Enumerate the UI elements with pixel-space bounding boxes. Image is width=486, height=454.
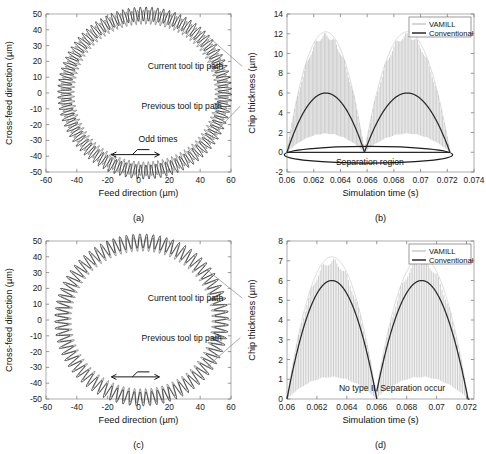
x-tick-label: -20 [102,175,114,185]
y-tick-label: 40 [33,25,43,35]
y-tick-label: 0 [278,147,283,157]
y-tick-label: 50 [33,236,43,246]
y-tick-label: -30 [30,362,42,372]
x-tick-label: 0.07 [412,175,429,185]
plot-frame-a [46,14,231,172]
panel-caption: (b) [375,213,386,223]
x-tick-label: 0.068 [396,402,417,412]
x-tick-label: 0.064 [330,175,351,185]
y-tick-label: -20 [30,120,42,130]
annotation-label: No type II [339,383,376,393]
panel-caption: (c) [133,440,144,450]
y-tick-label: 12 [274,29,284,39]
x-tick-label: 0.074 [464,175,485,185]
y-tick-label: 8 [278,68,283,78]
plot-b: 0.060.0620.0640.0660.0680.070.0720.074-2… [243,0,486,227]
x-tick-label: 0.066 [357,175,378,185]
y-tick-label: -30 [30,135,42,145]
legend-b: VAMILLConventional [409,17,474,38]
y-tick-label: 50 [33,9,43,19]
y-axis-title: Cross-feed direction (µm) [4,41,14,145]
x-axis-title: Feed direction (µm) [99,188,179,198]
y-tick-label: 40 [33,252,43,262]
y-tick-label: 10 [274,49,284,59]
plot-a: -60-40-200204060-50-40-30-20-10010203040… [0,0,243,227]
y-tick-label: -50 [30,167,42,177]
annotations-d: No type IISeparation occur [339,383,445,393]
y-tick-label: 6 [278,276,283,286]
annotation-label: Separation occur [380,383,445,393]
legend-label: VAMILL [429,247,455,256]
panel-caption: (d) [375,440,386,450]
y-tick-label: 0 [37,315,42,325]
legend-label: VAMILL [429,20,455,29]
y-tick-label: 1 [278,374,283,384]
figure-root: -60-40-200204060-50-40-30-20-10010203040… [0,0,486,454]
y-tick-label: 8 [278,236,283,246]
y-tick-label: 6 [278,88,283,98]
x-tick-label: 0.068 [383,175,404,185]
y-tick-label: 14 [274,9,284,19]
x-tick-label: 60 [226,402,236,412]
y-tick-label: 2 [278,355,283,365]
legend-d: VAMILLConventional [409,244,474,265]
plot-c: -60-40-200204060-50-40-30-20-10010203040… [0,227,243,454]
y-tick-label: -2 [276,167,284,177]
annotation-label: Previous tool tip path [142,333,222,343]
plot-d: 0.060.0620.0640.0660.0680.070.0720123456… [243,227,486,454]
y-tick-label: 10 [33,299,43,309]
y-tick-label: 3 [278,335,283,345]
y-tick-label: -50 [30,394,42,404]
x-axis-title: Feed direction (µm) [99,415,179,425]
y-tick-label: -10 [30,331,42,341]
x-tick-label: 40 [196,402,206,412]
y-tick-label: -10 [30,104,42,114]
x-tick-label: 0.064 [336,402,357,412]
annotation-label: Separation region [336,157,404,167]
panel-a: -60-40-200204060-50-40-30-20-10010203040… [0,0,243,227]
y-tick-label: 0 [278,394,283,404]
panel-c: -60-40-200204060-50-40-30-20-10010203040… [0,227,243,454]
x-tick-label: 0.072 [437,175,458,185]
y-tick-label: 4 [278,315,283,325]
y-axis-title: Cross-feed direction (µm) [4,268,14,372]
y-axis-title: Chip thickness (µm) [247,52,257,133]
y-tick-label: 7 [278,256,283,266]
annotation-label: Previous tool tip path [142,101,222,111]
x-tick-label: 20 [165,402,175,412]
y-axis-title: Chip thickness (µm) [247,279,257,360]
annotation-label: Current tool tip path [148,61,224,71]
panel-b: 0.060.0620.0640.0660.0680.070.0720.074-2… [243,0,486,227]
x-tick-label: 0.062 [303,175,324,185]
y-tick-label: 30 [33,268,43,278]
x-tick-label: 0.07 [428,402,445,412]
x-tick-label: -20 [102,402,114,412]
y-tick-label: 30 [33,41,43,51]
y-tick-label: -20 [30,347,42,357]
x-tick-label: -40 [71,402,83,412]
legend-label: Conventional [429,29,474,38]
annotations-b: Separation region [336,157,404,167]
x-axis-title: Simulation time (s) [342,188,418,198]
x-tick-label: 40 [196,175,206,185]
x-tick-label: 0.062 [306,402,327,412]
y-tick-label: 10 [33,72,43,82]
annotation-label: Odd times [139,134,178,144]
x-axis-title: Simulation time (s) [342,415,418,425]
x-tick-label: 0.066 [366,402,387,412]
x-tick-label: 0.072 [456,402,477,412]
y-tick-label: 20 [33,283,43,293]
y-tick-label: -40 [30,151,42,161]
y-tick-label: -40 [30,378,42,388]
panel-d: 0.060.0620.0640.0660.0680.070.0720123456… [243,227,486,454]
panel-caption: (a) [133,213,144,223]
y-tick-label: 0 [37,88,42,98]
x-tick-label: 60 [226,175,236,185]
annotation-label: Current tool tip path [148,293,224,303]
y-tick-label: 2 [278,128,283,138]
x-tick-label: -40 [71,175,83,185]
y-tick-label: 5 [278,295,283,305]
legend-label: Conventional [429,256,474,265]
y-tick-label: 4 [278,108,283,118]
y-tick-label: 20 [33,56,43,66]
